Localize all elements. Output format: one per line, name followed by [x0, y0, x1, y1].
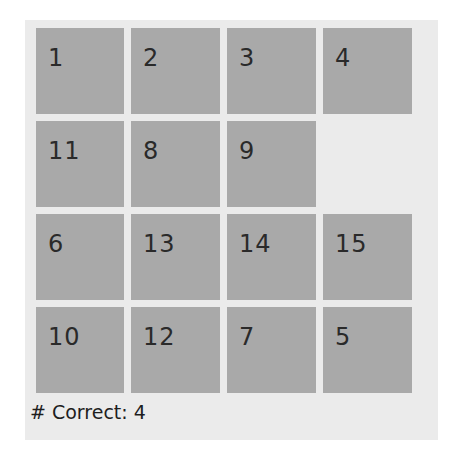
tile-r1-c2[interactable]: 2: [131, 28, 220, 114]
tile-r2-c3[interactable]: 9: [227, 121, 316, 207]
tile-number: 15: [335, 230, 368, 258]
tile-number: 10: [48, 323, 81, 351]
tile-r3-c3[interactable]: 14: [227, 214, 316, 300]
tile-r4-c1[interactable]: 10: [36, 307, 124, 393]
tile-number: 7: [239, 323, 255, 351]
puzzle-board: 1 2 3 4 11 8 9 6 13 14 15 10 12 7 5 # Co…: [25, 20, 438, 440]
tile-number: 12: [143, 323, 176, 351]
tile-r4-c2[interactable]: 12: [131, 307, 220, 393]
tile-number: 2: [143, 44, 159, 72]
tile-r3-c4[interactable]: 15: [323, 214, 412, 300]
tile-number: 3: [239, 44, 255, 72]
tile-r4-c4[interactable]: 5: [323, 307, 412, 393]
tile-r1-c3[interactable]: 3: [227, 28, 316, 114]
tile-number: 6: [48, 230, 64, 258]
tile-r2-c2[interactable]: 8: [131, 121, 220, 207]
tile-r3-c1[interactable]: 6: [36, 214, 124, 300]
tile-number: 5: [335, 323, 351, 351]
tile-grid: 1 2 3 4 11 8 9 6 13 14 15 10 12 7 5: [36, 28, 412, 393]
tile-number: 11: [48, 137, 81, 165]
tile-r1-c4[interactable]: 4: [323, 28, 412, 114]
tile-number: 13: [143, 230, 176, 258]
tile-number: 9: [239, 137, 255, 165]
correct-count-status: # Correct: 4: [30, 401, 146, 423]
tile-number: 8: [143, 137, 159, 165]
tile-r1-c1[interactable]: 1: [36, 28, 124, 114]
tile-r2-c1[interactable]: 11: [36, 121, 124, 207]
empty-slot: [323, 121, 412, 207]
tile-r3-c2[interactable]: 13: [131, 214, 220, 300]
tile-r4-c3[interactable]: 7: [227, 307, 316, 393]
tile-number: 1: [48, 44, 64, 72]
tile-number: 4: [335, 44, 351, 72]
tile-number: 14: [239, 230, 272, 258]
